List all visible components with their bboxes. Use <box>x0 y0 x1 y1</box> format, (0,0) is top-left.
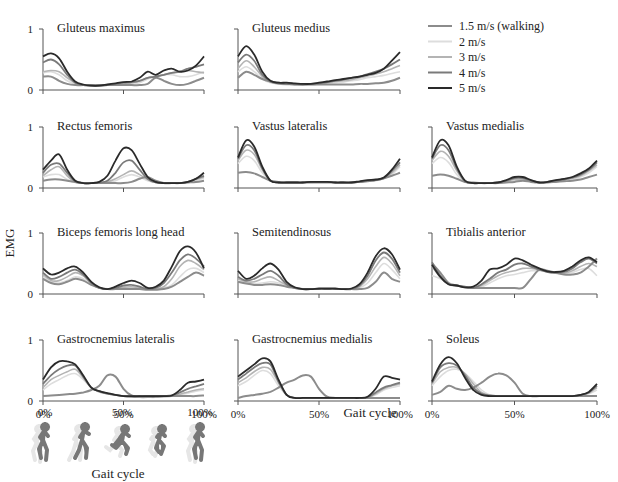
runner-tick-label: 100% <box>187 406 213 418</box>
panel-tibialis-anterior: Tibialis anterior <box>428 225 597 298</box>
panel-gluteus-maximus: 10Gluteus maximus <box>28 21 205 96</box>
legend-item: 4 m/s <box>428 66 486 80</box>
emg-figure: 10Gluteus maximusGluteus medius10Rectus … <box>0 0 618 482</box>
panel-semitendinosus: Semitendinosus <box>234 225 400 298</box>
runner-silhouettes: 0%50%100% <box>33 406 213 462</box>
series-line <box>432 357 597 396</box>
panel-title: Gluteus medius <box>252 21 330 35</box>
panel-vastus-lateralis: Vastus lateralis <box>234 119 400 192</box>
panel-title: Semitendinosus <box>252 225 331 239</box>
runner-icon <box>106 426 129 456</box>
runner-icon <box>188 424 203 462</box>
panel-vastus-medialis: Vastus medialis <box>428 119 597 192</box>
panel-title: Soleus <box>446 332 479 346</box>
runner-axis-label: Gait cycle <box>91 466 144 481</box>
series-line <box>432 259 597 289</box>
y-tick-label: 1 <box>28 334 34 346</box>
legend-item: 1.5 m/s (walking) <box>428 19 544 33</box>
legend-label: 1.5 m/s (walking) <box>459 19 544 33</box>
y-tick-label: 1 <box>28 227 34 239</box>
series-line <box>238 252 400 289</box>
y-axis-label: EMG <box>2 229 17 258</box>
panel-title: Biceps femoris long head <box>57 225 185 239</box>
legend-item: 5 m/s <box>428 81 486 95</box>
panel-title: Tibialis anterior <box>446 225 527 239</box>
runner-icon <box>33 424 48 462</box>
panel-gluteus-medius: Gluteus medius <box>234 21 400 94</box>
panel-soleus: 0%50%100%Soleus <box>425 332 610 420</box>
runner-icon <box>150 426 165 456</box>
series-line <box>43 147 204 183</box>
x-tick-label: 100% <box>584 408 610 420</box>
legend-item: 2 m/s <box>428 35 486 49</box>
y-tick-label: 0 <box>28 395 34 407</box>
y-tick-label: 0 <box>28 182 34 194</box>
panel-title: Gastrocnemius medialis <box>252 332 373 346</box>
panel-title: Gluteus maximus <box>57 21 145 35</box>
legend-item: 3 m/s <box>428 50 486 64</box>
series-line <box>43 365 204 397</box>
y-tick-label: 1 <box>28 121 34 133</box>
y-tick-label: 0 <box>28 84 34 96</box>
y-tick-label: 1 <box>28 23 34 35</box>
emg-panels: 10Gluteus maximusGluteus medius10Rectus … <box>28 21 610 420</box>
series-line <box>432 374 597 397</box>
panel-biceps-femoris-long-head: 10Biceps femoris long head <box>28 225 205 300</box>
panel-title: Gastrocnemius lateralis <box>57 332 175 346</box>
legend-label: 3 m/s <box>459 50 486 64</box>
runner-tick-label: 50% <box>112 406 132 418</box>
x-tick-label: 50% <box>309 408 329 420</box>
x-axis-label: Gait cycle <box>343 405 396 420</box>
x-tick-label: 0% <box>231 408 246 420</box>
y-tick-label: 0 <box>28 288 34 300</box>
panel-title: Rectus femoris <box>57 119 132 133</box>
panel-title: Vastus medialis <box>446 119 524 133</box>
panel-rectus-femoris: 10Rectus femoris <box>28 119 205 194</box>
runner-icon <box>69 424 89 460</box>
x-tick-label: 50% <box>504 408 524 420</box>
series-line <box>432 140 597 184</box>
x-tick-label: 0% <box>425 408 440 420</box>
legend: 1.5 m/s (walking)2 m/s3 m/s4 m/s5 m/s <box>428 19 544 95</box>
legend-label: 5 m/s <box>459 81 486 95</box>
runner-tick-label: 0% <box>38 406 53 418</box>
panel-title: Vastus lateralis <box>252 119 327 133</box>
legend-label: 2 m/s <box>459 35 486 49</box>
legend-label: 4 m/s <box>459 66 486 80</box>
